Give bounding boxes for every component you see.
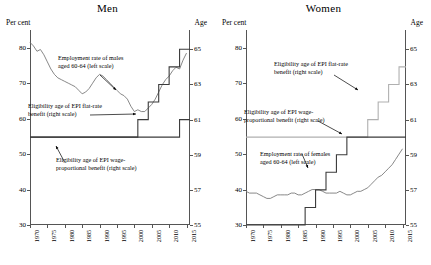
xtick-mark-women bbox=[385, 225, 386, 228]
ytick-mark-left-men bbox=[27, 154, 30, 155]
xtick-mark-men bbox=[117, 225, 118, 228]
xtick-men: 1980 bbox=[68, 230, 75, 242]
xtick-women: 1970 bbox=[249, 230, 256, 242]
xtick-mark-women bbox=[368, 225, 369, 228]
ytick-left-women: 30 bbox=[224, 221, 242, 229]
xtick-men: 2010 bbox=[172, 230, 179, 242]
ytick-mark-right-men bbox=[190, 49, 193, 50]
xtick-mark-men bbox=[134, 225, 135, 228]
ytick-mark-right-women bbox=[406, 190, 409, 191]
series-line-men-2 bbox=[30, 120, 190, 138]
ytick-mark-right-men bbox=[190, 190, 193, 191]
xtick-women: 2005 bbox=[371, 230, 378, 242]
annotation-men-employment: Employment rate of males aged 60-64 (lef… bbox=[58, 54, 150, 70]
ytick-mark-right-men bbox=[190, 225, 193, 226]
xtick-men: 2005 bbox=[155, 230, 162, 242]
xtick-men: 2015 bbox=[190, 230, 197, 242]
ytick-left-women: 60 bbox=[224, 115, 242, 123]
ytick-right-men: 63 bbox=[194, 80, 212, 88]
ytick-mark-left-women bbox=[243, 48, 246, 49]
axis-label-age-women: Age bbox=[411, 18, 424, 27]
xtick-women: 1995 bbox=[336, 230, 343, 242]
xtick-mark-women bbox=[316, 225, 317, 228]
ytick-mark-right-women bbox=[406, 84, 409, 85]
panel-title-men: Men bbox=[0, 2, 215, 14]
ytick-right-women: 57 bbox=[410, 186, 428, 194]
ytick-mark-right-women bbox=[406, 225, 409, 226]
ytick-right-men: 57 bbox=[194, 186, 212, 194]
ytick-right-women: 59 bbox=[410, 151, 428, 159]
annotation-women-wageproportional: Eligibility age of EPI wage- proportiona… bbox=[244, 108, 336, 124]
ytick-mark-left-men bbox=[27, 48, 30, 49]
annotation-women-employment: Employment rate of females aged 60-64 (l… bbox=[260, 150, 352, 166]
xtick-women: 2010 bbox=[388, 230, 395, 242]
ytick-right-men: 61 bbox=[194, 116, 212, 124]
xtick-mark-men bbox=[82, 225, 83, 228]
xtick-men: 1975 bbox=[50, 230, 57, 242]
ytick-left-men: 50 bbox=[8, 150, 26, 158]
ytick-right-men: 59 bbox=[194, 151, 212, 159]
xtick-mark-men bbox=[187, 225, 188, 228]
ytick-mark-right-women bbox=[406, 155, 409, 156]
xtick-mark-women bbox=[263, 225, 264, 228]
ytick-mark-left-men bbox=[27, 83, 30, 84]
ytick-right-women: 55 bbox=[410, 221, 428, 229]
annotation-leader-0 bbox=[100, 75, 116, 90]
annotation-leader-3 bbox=[334, 75, 358, 90]
ytick-right-women: 61 bbox=[410, 116, 428, 124]
xtick-mark-men bbox=[65, 225, 66, 228]
panel-title-women: Women bbox=[216, 2, 431, 14]
ytick-mark-left-men bbox=[27, 190, 30, 191]
annotation-arrowhead-1 bbox=[133, 113, 136, 116]
xtick-mark-women bbox=[281, 225, 282, 228]
xtick-mark-women bbox=[246, 225, 247, 228]
ytick-left-women: 70 bbox=[224, 79, 242, 87]
ytick-mark-left-women bbox=[243, 83, 246, 84]
ytick-left-women: 40 bbox=[224, 186, 242, 194]
panel-women: Women Per cent Age Eligibility age of EP… bbox=[216, 0, 431, 265]
ytick-mark-right-women bbox=[406, 120, 409, 121]
ytick-left-women: 50 bbox=[224, 150, 242, 158]
xtick-women: 1985 bbox=[301, 230, 308, 242]
xtick-men: 1985 bbox=[85, 230, 92, 242]
panel-men: Men Per cent Age Employment rate of male… bbox=[0, 0, 215, 265]
annotation-women-flatrate: Eligibility age of EPI flat-rate benefit… bbox=[274, 60, 360, 76]
xtick-women: 2015 bbox=[406, 230, 413, 242]
xtick-mark-men bbox=[152, 225, 153, 228]
ytick-mark-right-men bbox=[190, 84, 193, 85]
ytick-left-men: 80 bbox=[8, 44, 26, 52]
ytick-mark-left-women bbox=[243, 154, 246, 155]
plot-area-women: Eligibility age of EPI flat-rate benefit… bbox=[246, 30, 406, 225]
xtick-men: 1990 bbox=[103, 230, 110, 242]
xtick-mark-women bbox=[350, 225, 351, 228]
ytick-right-women: 65 bbox=[410, 45, 428, 53]
xtick-mark-men bbox=[169, 225, 170, 228]
axis-label-age-men: Age bbox=[195, 18, 208, 27]
xtick-mark-men bbox=[30, 225, 31, 228]
xtick-men: 1995 bbox=[120, 230, 127, 242]
ytick-right-men: 65 bbox=[194, 45, 212, 53]
xtick-mark-women bbox=[403, 225, 404, 228]
xtick-women: 1975 bbox=[266, 230, 273, 242]
ytick-mark-right-men bbox=[190, 155, 193, 156]
ytick-left-men: 40 bbox=[8, 186, 26, 194]
ytick-right-men: 55 bbox=[194, 221, 212, 229]
xtick-women: 2000 bbox=[353, 230, 360, 242]
axis-label-percent-men: Per cent bbox=[6, 18, 30, 27]
xtick-mark-men bbox=[100, 225, 101, 228]
ytick-left-men: 30 bbox=[8, 221, 26, 229]
ytick-mark-right-men bbox=[190, 120, 193, 121]
xtick-mark-women bbox=[298, 225, 299, 228]
xtick-men: 2000 bbox=[137, 230, 144, 242]
annotation-men-wageproportional: Eligibility age of EPI wage- proportiona… bbox=[56, 156, 154, 172]
xtick-women: 1990 bbox=[319, 230, 326, 242]
ytick-left-men: 60 bbox=[8, 115, 26, 123]
ytick-mark-left-women bbox=[243, 190, 246, 191]
figure-root: Men Per cent Age Employment rate of male… bbox=[0, 0, 431, 265]
xtick-women: 1980 bbox=[284, 230, 291, 242]
annotation-men-flatrate: Eligibility age of EPI flat-rate benefit… bbox=[28, 102, 108, 118]
xtick-mark-men bbox=[47, 225, 48, 228]
ytick-mark-left-women bbox=[243, 119, 246, 120]
xtick-mark-women bbox=[333, 225, 334, 228]
series-line-women-1 bbox=[246, 67, 406, 137]
